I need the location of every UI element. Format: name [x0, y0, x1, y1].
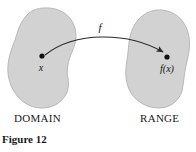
- range-set-label: RANGE: [140, 112, 179, 124]
- figure-caption: Figure 12: [2, 133, 47, 145]
- domain-set-label: DOMAIN: [14, 112, 61, 124]
- figure-container: x f(x) f DOMAIN RANGE Figure 12: [0, 0, 196, 152]
- domain-point-dot: [39, 53, 44, 58]
- function-arrow-label: f: [98, 21, 103, 33]
- range-point-dot: [164, 54, 169, 59]
- range-point-label: f(x): [160, 63, 175, 75]
- function-mapping-diagram: x f(x) f: [0, 0, 196, 152]
- domain-point-label: x: [38, 62, 44, 73]
- range-blob-shape: [126, 10, 190, 108]
